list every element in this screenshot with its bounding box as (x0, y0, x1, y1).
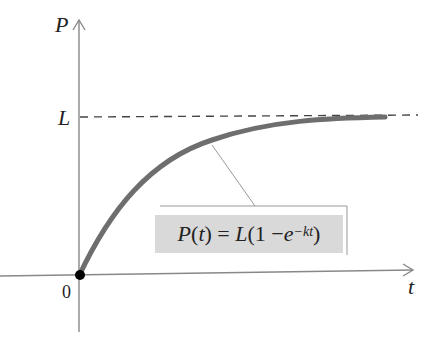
figure: P L 0 t P(t) = L(1 − e−kt) (0, 0, 438, 340)
leader-line (212, 145, 255, 206)
formula-rhs-open: (1 − (248, 221, 284, 247)
formula-box: P(t) = L(1 − e−kt) (155, 215, 343, 253)
formula-rhs-exp: −kt (294, 224, 314, 240)
formula-rhs-base: e (284, 221, 294, 247)
origin-point (75, 270, 85, 280)
origin-label: 0 (62, 282, 71, 302)
formula-paren-close: ) (205, 221, 212, 247)
y-axis-label: P (54, 12, 68, 37)
formula-rhs-close: ) (313, 221, 320, 247)
formula-paren-open: ( (191, 221, 198, 247)
y-axis (73, 20, 85, 332)
formula-rhs-coef: L (235, 221, 247, 247)
x-axis-label: t (408, 274, 415, 299)
formula-equals: = (217, 221, 229, 247)
x-axis (0, 264, 413, 276)
asymptote-label: L (57, 105, 70, 130)
formula-lhs-func: P (178, 221, 191, 247)
